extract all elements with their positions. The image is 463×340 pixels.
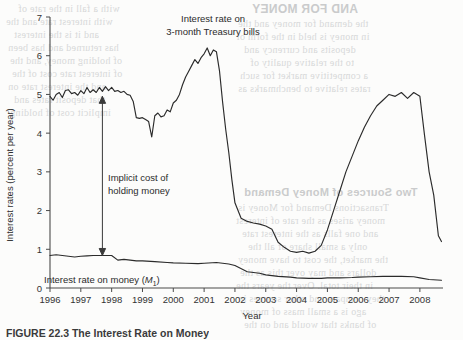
- x-tick-label: 2000: [163, 294, 184, 305]
- x-tick-label: 1997: [70, 294, 91, 305]
- y-tick-label: 4: [37, 128, 42, 139]
- x-tick-label: 2005: [317, 294, 338, 305]
- annotation-implicit-cost: Implicit cost of holding money: [99, 96, 170, 255]
- y-tick-label: 5: [37, 89, 42, 100]
- x-tick-label: 2004: [286, 294, 307, 305]
- y-tick-label: 3: [37, 166, 42, 177]
- y-tick-label: 2: [37, 205, 42, 216]
- implicit-cost-label-line2: holding money: [108, 185, 170, 196]
- y-axis-tick-labels: 01234567: [37, 12, 42, 294]
- y-axis-ticks: [46, 17, 50, 288]
- implicit-cost-arrowhead-bottom: [99, 248, 105, 255]
- scanned-page: AND FOR MONEYthe demand for money and th…: [0, 0, 463, 340]
- implicit-cost-label-line1: Implicit cost of: [108, 172, 169, 183]
- y-axis-title: Interest rates (percent per year): [4, 108, 15, 242]
- chart-axes: [46, 17, 443, 292]
- series-label-money-m1: Interest rate on money (M1): [44, 274, 160, 287]
- x-axis-tick-labels: 1996199719981999200020012002200320042005…: [39, 294, 430, 305]
- chart-series: [50, 48, 441, 280]
- y-tick-label: 0: [37, 283, 42, 294]
- series-label-treasury-line1: Interest rate on: [181, 13, 245, 24]
- x-axis-title: Year: [242, 310, 261, 321]
- x-tick-label: 2003: [255, 294, 276, 305]
- x-tick-label: 2002: [224, 294, 245, 305]
- figure-chart: 01234567 1996199719981999200020012002200…: [0, 0, 463, 340]
- interest-rates-line-chart: 01234567 1996199719981999200020012002200…: [0, 0, 463, 340]
- y-tick-label: 7: [37, 12, 42, 23]
- x-tick-label: 2008: [409, 294, 430, 305]
- series-line-treasury-bills: [50, 48, 441, 253]
- x-tick-label: 2006: [348, 294, 369, 305]
- implicit-cost-arrowhead-top: [99, 96, 105, 103]
- x-tick-label: 1998: [101, 294, 122, 305]
- y-tick-label: 1: [37, 244, 42, 255]
- y-tick-label: 6: [37, 50, 42, 61]
- x-tick-label: 1996: [39, 294, 60, 305]
- series-label-treasury-line2b: 3-month Treasury bills: [166, 26, 260, 37]
- x-tick-label: 2001: [194, 294, 215, 305]
- x-tick-label: 1999: [132, 294, 153, 305]
- x-axis-ticks: [50, 288, 420, 292]
- figure-caption: FIGURE 22.3 The Interest Rate on Money: [6, 327, 209, 340]
- x-tick-label: 2007: [378, 294, 399, 305]
- series-labels: Interest rate on 3-month Treasury bills …: [44, 13, 260, 287]
